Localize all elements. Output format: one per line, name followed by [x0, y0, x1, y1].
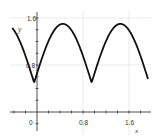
line-chart: 0.8 1.6 0 0.8 1.6 x y: [0, 0, 159, 139]
y-axis-label: y: [17, 25, 22, 34]
y-tick-label-0.8: 0.8: [26, 62, 35, 69]
x-tick-label-1.6: 1.6: [125, 119, 134, 126]
x-tick-label-0.8: 0.8: [79, 119, 88, 126]
x-tick-label-0: 0: [29, 119, 33, 126]
data-series-y: [12, 24, 148, 82]
ticks: [14, 18, 141, 124]
chart-container: 0.8 1.6 0 0.8 1.6 x y: [0, 0, 159, 139]
x-axis-label: x: [134, 127, 139, 135]
y-tick-label-1.6: 1.6: [27, 15, 36, 22]
